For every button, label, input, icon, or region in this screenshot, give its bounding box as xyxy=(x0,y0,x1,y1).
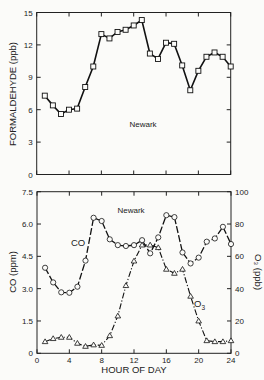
co-o3-series xyxy=(42,213,234,349)
bottom-plot-frame xyxy=(37,192,231,354)
y-tick-label: 0 xyxy=(29,349,34,358)
square-marker xyxy=(42,93,47,98)
y-tick-label: 7.5 xyxy=(22,188,34,197)
figure: 03691215 FORMALDEHYDE (ppb) Newark 01.53… xyxy=(0,0,264,380)
circle-marker xyxy=(228,241,233,246)
y-tick-label-right: 60 xyxy=(235,252,244,261)
circle-marker xyxy=(148,251,153,256)
y-tick-label-right: 20 xyxy=(235,317,244,326)
circle-marker xyxy=(115,243,120,248)
y-tick-label-right: 100 xyxy=(235,188,249,197)
square-marker xyxy=(83,85,88,90)
circle-marker xyxy=(172,215,177,220)
triangle-marker xyxy=(188,293,194,298)
circle-marker xyxy=(139,238,144,243)
triangle-marker xyxy=(196,318,202,323)
circle-marker xyxy=(204,239,209,244)
circle-marker xyxy=(67,290,72,295)
bottom-chart-title: Newark xyxy=(117,206,145,215)
x-tick-label: 24 xyxy=(227,356,236,365)
top-y-axis-label: FORMALDEHYDE (ppb) xyxy=(7,42,18,146)
y-tick-label-right: 80 xyxy=(235,220,244,229)
triangle-marker xyxy=(115,313,121,318)
square-marker xyxy=(115,29,120,34)
y-tick-label: 6.0 xyxy=(22,220,34,229)
y-tick-label: 6 xyxy=(28,106,33,115)
y-tick-label: 3 xyxy=(28,138,33,147)
square-marker xyxy=(188,88,193,93)
circle-marker xyxy=(188,261,193,266)
y-tick-label: 15 xyxy=(24,9,33,18)
triangle-marker xyxy=(204,338,210,343)
circle-marker xyxy=(107,237,112,242)
triangle-marker xyxy=(58,335,64,340)
square-marker xyxy=(91,64,96,69)
triangle-marker xyxy=(123,283,129,288)
circle-marker xyxy=(51,280,56,285)
y-tick-label: 9 xyxy=(28,73,33,82)
co-o3-chart: 01.53.04.56.07.5 020406080100 0481216202… xyxy=(7,188,264,375)
co-series-label: CO xyxy=(71,237,85,248)
square-marker xyxy=(172,41,177,46)
square-marker xyxy=(107,36,112,41)
y-tick-label: 0 xyxy=(28,171,33,180)
triangle-marker xyxy=(147,242,153,247)
triangle-marker xyxy=(212,339,218,344)
bottom-left-y-axis-label: CO (ppm) xyxy=(7,251,18,293)
bottom-left-y-ticks: 01.53.04.56.07.5 xyxy=(22,188,41,359)
y-tick-label-right: 40 xyxy=(235,285,244,294)
square-marker xyxy=(228,64,233,69)
top-plot-frame xyxy=(37,13,231,175)
square-marker xyxy=(196,68,201,73)
x-tick-label: 0 xyxy=(35,356,40,365)
top-chart-title: Newark xyxy=(129,120,157,129)
circle-marker xyxy=(42,265,47,270)
y-tick-label: 3.0 xyxy=(22,285,34,294)
circle-marker xyxy=(220,224,225,229)
x-tick-label: 20 xyxy=(194,356,203,365)
square-marker xyxy=(123,27,128,32)
top-y-ticks: 03691215 xyxy=(24,9,231,180)
y-tick-label-right: 0 xyxy=(235,349,240,358)
square-marker xyxy=(164,40,169,45)
circle-marker xyxy=(212,236,217,241)
square-marker xyxy=(50,103,55,108)
square-marker xyxy=(180,63,185,68)
x-tick-label: 4 xyxy=(67,356,72,365)
circle-marker xyxy=(83,258,88,263)
square-marker xyxy=(131,23,136,28)
circle-marker xyxy=(156,235,161,240)
y-tick-label: 4.5 xyxy=(22,252,34,261)
triangle-marker xyxy=(228,338,234,343)
y-tick-label: 1.5 xyxy=(22,317,34,326)
o3-line xyxy=(45,245,231,346)
circle-marker xyxy=(123,243,128,248)
triangle-marker xyxy=(50,336,56,341)
triangle-marker xyxy=(164,266,170,271)
square-marker xyxy=(147,51,152,56)
formaldehyde-series xyxy=(42,18,233,117)
triangle-marker xyxy=(75,340,81,345)
circle-marker xyxy=(75,284,80,289)
formaldehyde-line xyxy=(45,20,231,114)
square-marker xyxy=(212,50,217,55)
circle-marker xyxy=(196,255,201,260)
square-marker xyxy=(58,112,63,117)
o3-series-label: O3 xyxy=(194,298,205,311)
circle-marker xyxy=(164,213,169,218)
circle-marker xyxy=(131,243,136,248)
bottom-right-y-ticks: 020406080100 xyxy=(227,188,249,359)
circle-marker xyxy=(91,215,96,220)
circle-marker xyxy=(59,290,64,295)
x-axis-label: HOUR OF DAY xyxy=(101,364,167,375)
top-x-ticks xyxy=(37,13,231,175)
bottom-right-y-axis-label: O₃ (ppb) xyxy=(253,254,264,290)
triangle-marker xyxy=(107,333,113,338)
square-marker xyxy=(75,106,80,111)
square-marker xyxy=(67,107,72,112)
triangle-marker xyxy=(180,266,186,271)
triangle-marker xyxy=(131,258,137,263)
square-marker xyxy=(155,56,160,61)
square-marker xyxy=(99,32,104,37)
square-marker xyxy=(220,54,225,59)
